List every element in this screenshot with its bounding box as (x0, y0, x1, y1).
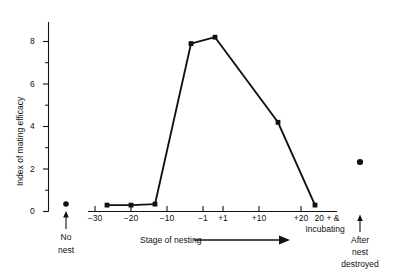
data-line (107, 37, 315, 205)
data-point (276, 120, 281, 125)
x-tick-label-minus-30: −30 (88, 213, 102, 223)
x-tick-label-20-plus: 20 + & (315, 213, 340, 223)
data-point (189, 41, 194, 46)
y-axis-major-ticks (43, 42, 49, 212)
after-nest-destroyed-line1: After (351, 235, 369, 245)
x-tick-label-minus-10: −10 (160, 213, 174, 223)
x-axis-title-arrow-icon (194, 236, 290, 245)
data-point (313, 203, 318, 208)
after-nest-destroyed-arrow-icon (357, 215, 363, 233)
data-point-markers (105, 35, 318, 208)
data-point (129, 203, 134, 208)
no-nest-arrow-icon (63, 211, 69, 229)
incubating-label: Incubating (305, 224, 344, 234)
y-axis-title: Index of mating efficacy (15, 97, 25, 186)
data-point (153, 202, 158, 207)
x-axis-ticks (95, 206, 301, 212)
isolated-point-after-nest-destroyed (357, 159, 363, 165)
y-tick-label-6: 6 (30, 79, 35, 89)
isolated-point-no-nest (63, 201, 69, 207)
x-tick-label-plus-10: +10 (252, 213, 266, 223)
data-point (105, 203, 110, 208)
y-tick-label-4: 4 (30, 121, 35, 131)
y-tick-label-0: 0 (30, 206, 35, 216)
after-nest-destroyed-line2: nest (352, 247, 368, 257)
x-tick-label-plus-1: +1 (218, 213, 228, 223)
x-axis-title: Stage of nesting (140, 235, 201, 245)
chart-figure: Index of mating efficacy 0 2 4 6 8 −30 −… (0, 0, 394, 273)
no-nest-label-line1: No (61, 232, 72, 242)
x-tick-label-minus-20: −20 (124, 213, 138, 223)
data-point (213, 35, 218, 40)
no-nest-label-line2: nest (58, 245, 74, 255)
x-tick-label-plus-20: +20 (294, 213, 308, 223)
x-tick-label-minus-1: −1 (198, 213, 208, 223)
after-nest-destroyed-line3: destroyed (341, 259, 378, 269)
y-tick-label-2: 2 (30, 164, 35, 174)
y-tick-label-8: 8 (30, 36, 35, 46)
